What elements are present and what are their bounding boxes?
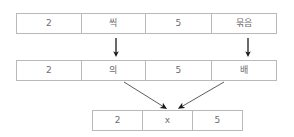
arrow-diagonal-bae-to-times	[181, 82, 224, 107]
expression-row-3: 2 x 5	[92, 110, 243, 131]
cell-row2-particle-ui: 의	[82, 61, 147, 80]
cell-row1-unit-mukeum: 묶음	[212, 14, 277, 33]
cell-row3-number-left: 2	[93, 111, 143, 130]
cell-row3-number-right: 5	[193, 111, 242, 130]
cell-row2-number-right: 5	[146, 61, 212, 80]
arrow-diagonal-ui-to-times	[124, 82, 164, 107]
transformation-diagram: 2 씩 5 묶음 2 의 5 배 2 x 5	[0, 0, 294, 137]
expression-row-2: 2 의 5 배	[16, 60, 277, 81]
cell-row2-unit-bae: 배	[212, 61, 277, 80]
expression-row-1: 2 씩 5 묶음	[16, 13, 277, 34]
cell-row3-operator-times: x	[143, 111, 192, 130]
cell-row1-number-left: 2	[17, 14, 82, 33]
cell-row1-particle-ssik: 씩	[82, 14, 147, 33]
cell-row1-number-right: 5	[146, 14, 212, 33]
cell-row2-number-left: 2	[17, 61, 82, 80]
